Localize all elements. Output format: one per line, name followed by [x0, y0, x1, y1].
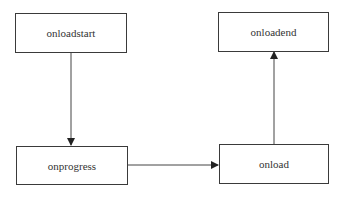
node-label: onload	[259, 158, 289, 170]
node-onloadend: onloadend	[218, 12, 329, 52]
node-onprogress: onprogress	[16, 146, 128, 185]
node-onloadstart: onloadstart	[15, 13, 127, 53]
node-onload: onload	[219, 144, 329, 184]
node-label: onprogress	[48, 160, 96, 172]
node-label: onloadstart	[47, 27, 96, 39]
node-label: onloadend	[251, 26, 297, 38]
